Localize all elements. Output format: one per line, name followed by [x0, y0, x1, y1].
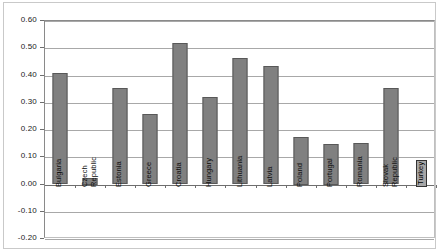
y-tick-label: 0.10: [4, 152, 37, 160]
y-tick-label: 0.30: [4, 98, 37, 106]
bar-slot[interactable]: [256, 21, 286, 237]
category-label[interactable]: Croatia: [175, 162, 184, 187]
y-tick-mark: [40, 47, 44, 48]
bars-group: [45, 21, 434, 237]
bar-slot[interactable]: [225, 21, 255, 237]
y-tick-label: 0.60: [4, 16, 37, 24]
bar-slot[interactable]: [105, 21, 135, 237]
category-label[interactable]: Hungary: [205, 157, 214, 186]
bar-slot[interactable]: [135, 21, 165, 237]
category-label[interactable]: Poland: [296, 163, 305, 187]
y-tick-mark: [40, 238, 44, 239]
x-tick-mark: [436, 185, 437, 188]
bar-slot[interactable]: [316, 21, 346, 237]
chart-frame: 0.600.500.400.300.200.100.00-0.10-0.20 B…: [3, 2, 436, 249]
category-label[interactable]: Slovak Republic: [382, 157, 399, 187]
category-label[interactable]: Estonia: [115, 161, 124, 187]
bar-slot[interactable]: [45, 21, 75, 237]
category-label[interactable]: Portugal: [326, 158, 335, 187]
bar-chart: 0.600.500.400.300.200.100.00-0.10-0.20 B…: [0, 0, 439, 252]
category-label[interactable]: Greece: [145, 161, 154, 186]
category-label[interactable]: Lithuania: [236, 155, 245, 186]
y-tick-mark: [40, 184, 44, 185]
y-tick-mark: [40, 129, 44, 130]
y-tick-label: 0.50: [4, 43, 37, 51]
y-tick-mark: [40, 75, 44, 76]
bar-slot[interactable]: [195, 21, 225, 237]
category-label[interactable]: Romania: [356, 156, 365, 187]
y-tick-mark: [40, 211, 44, 212]
gridline: [45, 239, 434, 240]
y-tick-label: 0.40: [4, 71, 37, 79]
bar-slot[interactable]: [286, 21, 316, 237]
y-tick-mark: [40, 156, 44, 157]
y-tick-label: -0.10: [4, 207, 37, 215]
y-tick-mark: [40, 102, 44, 103]
y-tick-label: 0.20: [4, 125, 37, 133]
category-label[interactable]: Czech Republic: [81, 157, 98, 187]
bar-slot[interactable]: [406, 21, 436, 237]
bar-slot[interactable]: [165, 21, 195, 237]
category-label[interactable]: Latvia: [266, 166, 275, 187]
bar-slot[interactable]: [346, 21, 376, 237]
bar-slot[interactable]: [376, 21, 406, 237]
category-label[interactable]: Turkey: [416, 159, 427, 186]
y-tick-mark: [40, 20, 44, 21]
plot-area: [44, 20, 435, 238]
y-tick-label: 0.00: [4, 180, 37, 188]
bar-slot[interactable]: [75, 21, 105, 237]
category-label[interactable]: Bulgaria: [55, 158, 64, 186]
y-tick-label: -0.20: [4, 234, 37, 242]
